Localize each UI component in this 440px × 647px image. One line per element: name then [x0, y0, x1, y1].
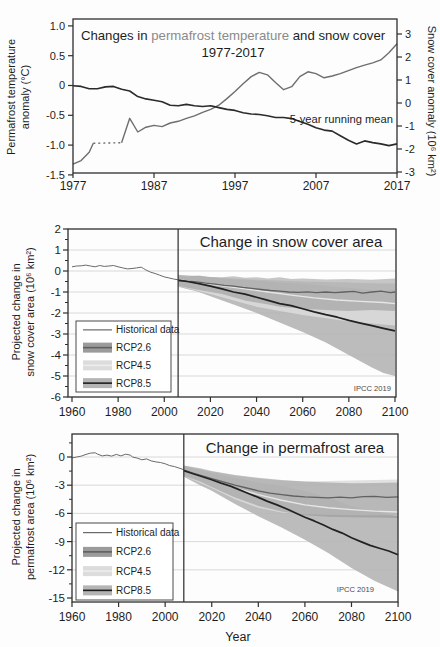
x-axis-tick-label: 2080 [338, 610, 365, 624]
y-axis-tick-label: -3 [55, 479, 65, 491]
legend: Historical dataRCP2.6RCP4.5RCP8.5 [76, 523, 180, 600]
top-left-axis-label-line1: Permafrost temperature [5, 39, 17, 155]
x-axis-tick-label: 2100 [382, 405, 409, 419]
left-axis-tick-label: -1.0 [46, 139, 65, 151]
x-axis-tick-label: 2000 [152, 610, 179, 624]
right-axis-tick-label: 1 [405, 74, 411, 86]
x-axis-tick-label: 1960 [59, 405, 86, 419]
y-axis-tick-label: 0 [55, 265, 61, 277]
x-axis-tick-label: 2060 [292, 610, 319, 624]
x-axis-tick-label: 1980 [105, 610, 132, 624]
x-axis-tick-label: 1977 [60, 179, 87, 193]
y-axis-tick-label: -4 [51, 349, 62, 361]
x-axis-tick-label: 1987 [141, 179, 168, 193]
y-axis-tick-label: -6 [51, 391, 61, 403]
right-axis-tick-label: 2 [405, 51, 411, 63]
top-chart-title-part2-highlighted: permafrost temperature [151, 28, 289, 43]
snow-chart-source-label: IPCC 2019 [354, 384, 391, 393]
top-chart-title: Changes in permafrost temperature and sn… [81, 28, 386, 43]
y-axis-tick-label: 1 [55, 244, 61, 256]
x-axis-tick-label: 2060 [289, 405, 316, 419]
top-chart-subtitle: 1977-2017 [201, 45, 264, 60]
legend-item-label: RCP2.6 [116, 342, 151, 353]
left-axis-tick-label: 0.5 [50, 50, 65, 62]
snow-chart-ylabel-line1: Projected change in [10, 263, 22, 360]
x-axis-tick-label: 2020 [198, 610, 225, 624]
right-axis-tick-label: -3 [405, 166, 415, 178]
y-axis-tick-label: 2 [55, 223, 61, 235]
y-axis-tick-label: -6 [55, 507, 65, 519]
right-axis-tick-label: 0 [405, 97, 411, 109]
permafrost-chart-title: Change in permafrost area [206, 439, 385, 456]
y-axis-tick-label: 0 [59, 451, 65, 463]
legend-item-label: RCP8.5 [116, 378, 151, 389]
left-axis-tick-label: 1.0 [50, 20, 65, 32]
y-axis-tick-label: -15 [48, 592, 65, 604]
legend-item-label: RCP4.5 [116, 566, 151, 577]
x-axis-tick-label: 2100 [385, 610, 412, 624]
legend-item-label: RCP4.5 [116, 360, 151, 371]
snow-chart-title: Change in snow cover area [200, 233, 383, 250]
top-left-axis-label-line2: anomaly (°C) [19, 65, 31, 129]
x-axis-tick-label: 2040 [245, 610, 272, 624]
snow-chart-ylabel-line2: snow cover area (10⁶ km²) [24, 247, 36, 376]
y-axis-tick-label: -2 [51, 307, 61, 319]
y-axis-tick-label: -3 [51, 328, 61, 340]
y-axis-tick-label: -12 [48, 564, 65, 576]
permafrost-chart-ylabel-line2: permafrost area (10⁶ km²) [24, 454, 36, 580]
x-axis-tick-label: 2007 [303, 179, 330, 193]
right-axis-tick-label: -1 [405, 120, 415, 132]
permafrost-chart-ylabel-line1: Projected change in [10, 468, 22, 565]
legend-item-label: RCP2.6 [116, 546, 151, 557]
chart-graphics-layer: 1.00.50-0.5-1.0-1.53210-1-2-319771987199… [46, 19, 415, 624]
y-axis-tick-label: -1 [51, 286, 61, 298]
x-axis-tick-label: 2040 [243, 405, 270, 419]
running-mean-annotation: 5-year running mean [290, 113, 393, 125]
Historical data-line [72, 453, 184, 470]
x-axis-tick-label: 1997 [222, 179, 249, 193]
y-axis-tick-label: -9 [55, 536, 65, 548]
x-axis-tick-label: 2080 [335, 405, 362, 419]
legend-item-label: Historical data [116, 527, 180, 538]
left-axis-tick-label: 0 [59, 79, 65, 91]
figure-page: 1.00.50-0.5-1.0-1.53210-1-2-319771987199… [0, 0, 440, 647]
legend-item-label: RCP8.5 [116, 585, 151, 596]
top-chart-title-part1: Changes in [81, 28, 151, 43]
permafrost-snow-figure: 1.00.50-0.5-1.0-1.53210-1-2-319771987199… [0, 0, 440, 647]
right-axis-tick-label: -2 [405, 143, 415, 155]
top-chart-title-part3: and snow cover [289, 28, 386, 43]
permafrost-projection-chart: 0-3-6-9-12-15196019802000202020402060208… [48, 434, 411, 624]
permafrost-temperature-anomaly-line [73, 143, 93, 164]
x-axis-tick-label: 1980 [105, 405, 132, 419]
x-axis-tick-label: 2020 [197, 405, 224, 419]
legend-item-label: Historical data [116, 324, 180, 335]
permafrost-temperature-anomaly-line-dotted [93, 143, 121, 144]
permafrost-chart-source-label: IPCC 2019 [337, 585, 374, 594]
left-axis-tick-label: -0.5 [46, 109, 65, 121]
x-axis-label-year: Year [225, 630, 250, 644]
y-axis-tick-label: -5 [51, 370, 61, 382]
legend: Historical dataRCP2.6RCP4.5RCP8.5 [76, 321, 180, 392]
x-axis-tick-label: 1960 [59, 610, 86, 624]
Historical data-line [72, 265, 178, 280]
right-axis-tick-label: 3 [405, 28, 411, 40]
x-axis-tick-label: 2000 [151, 405, 178, 419]
x-axis-tick-label: 2017 [384, 179, 411, 193]
top-right-axis-label: Snow cover anomaly (10⁶ km²) [426, 26, 438, 177]
